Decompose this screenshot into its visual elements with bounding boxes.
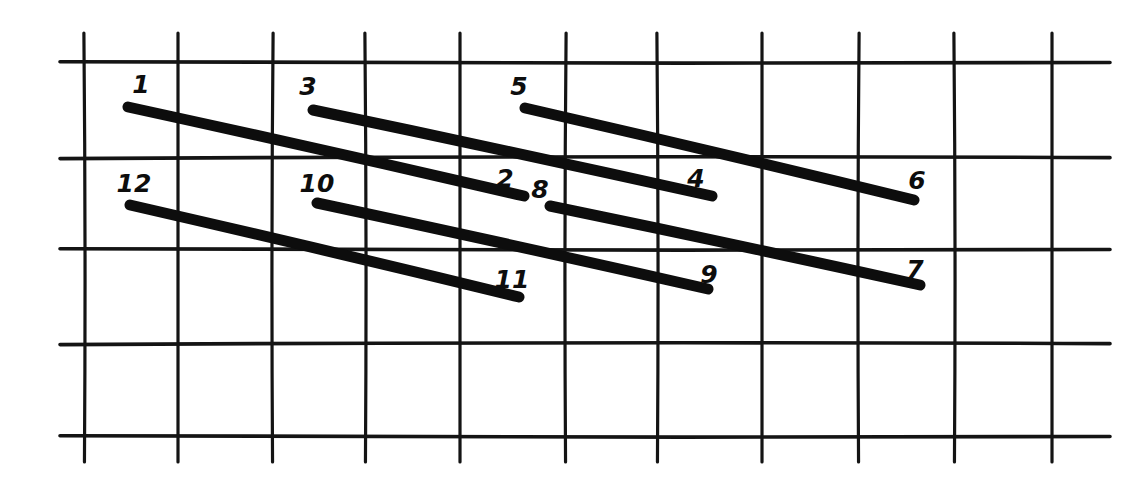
grid-line-horizontal: [60, 436, 1110, 437]
figure-canvas: 123456121110987: [0, 0, 1131, 497]
grid-line-vertical: [954, 33, 955, 462]
endpoint-label-5: 5: [510, 72, 527, 101]
grid-line-horizontal: [60, 249, 1110, 250]
endpoint-label-2: 2: [496, 164, 513, 193]
endpoint-label-7: 7: [906, 255, 924, 284]
endpoint-label-4: 4: [686, 164, 704, 193]
endpoint-label-9: 9: [700, 260, 717, 289]
grid-line-horizontal: [60, 343, 1110, 345]
grid-line-horizontal: [60, 157, 1110, 159]
line-segment-8-7: [550, 206, 920, 285]
grid-line-vertical: [657, 33, 658, 462]
endpoint-label-12: 12: [117, 169, 152, 198]
grid-line-horizontal: [60, 62, 1110, 63]
endpoint-label-10: 10: [300, 169, 335, 198]
grid-line-vertical: [565, 33, 566, 462]
endpoint-label-1: 1: [132, 70, 149, 99]
line-segment-5-6: [525, 108, 914, 200]
diagram-svg: 123456121110987: [0, 0, 1131, 497]
endpoint-label-8: 8: [531, 175, 548, 204]
grid-line-vertical: [365, 33, 366, 462]
endpoint-label-6: 6: [908, 166, 925, 195]
endpoint-label-11: 11: [495, 265, 530, 294]
grid-line-vertical: [858, 33, 859, 462]
endpoint-label-3: 3: [299, 72, 316, 101]
